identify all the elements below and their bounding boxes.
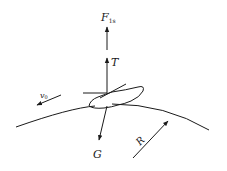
road-arc	[16, 104, 209, 130]
force-diagram: F1s T v0 G R	[0, 0, 227, 171]
velocity-label: v0	[40, 91, 48, 100]
tension-label: T	[111, 56, 120, 69]
gravity-label: G	[93, 148, 102, 161]
gravity-arrow	[99, 106, 107, 140]
slanted-line	[100, 84, 126, 98]
lift-force-label: F1s	[100, 11, 116, 24]
